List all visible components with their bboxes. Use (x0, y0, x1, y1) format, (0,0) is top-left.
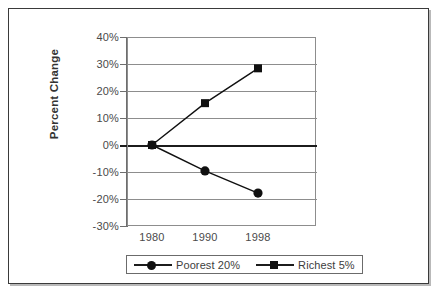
y-tick-20 (120, 91, 127, 92)
y-tick-40 (120, 37, 127, 38)
y-tick-neg30 (120, 226, 127, 227)
legend-label-poorest-20: Poorest 20% (176, 259, 240, 271)
y-tick-label-40: 40% (59, 32, 119, 43)
square-marker-icon (256, 259, 294, 271)
y-tick-10 (120, 118, 127, 119)
y-tick-neg20 (120, 199, 127, 200)
y-tick-label-0: 0% (59, 140, 119, 151)
y-tick-label-10: 10% (59, 113, 119, 124)
y-tick-label-neg30: -30% (59, 221, 119, 232)
legend-entry-richest-5[interactable]: Richest 5% (256, 259, 355, 271)
y-axis-tick-labels: 40% 30% 20% 10% 0% -10% -20% -30% (55, 0, 119, 293)
x-tick-label-1990: 1990 (192, 231, 217, 243)
x-tick-label-1998: 1998 (245, 231, 270, 243)
gridline-20 (128, 91, 317, 92)
chart-figure: Percent Change 40% 30% 20% 10% 0% -10% -… (0, 0, 438, 293)
y-tick-30 (120, 64, 127, 65)
legend-entry-poorest-20[interactable]: Poorest 20% (134, 259, 240, 271)
gridline-0 (128, 145, 317, 147)
gridline-neg20 (128, 199, 317, 200)
x-tick-label-1980: 1980 (139, 231, 164, 243)
y-tick-neg10 (120, 172, 127, 173)
y-tick-0 (120, 145, 127, 147)
y-tick-label-20: 20% (59, 86, 119, 97)
x-axis-tick-labels: 1980 1990 1998 (127, 231, 316, 247)
y-tick-label-neg10: -10% (59, 167, 119, 178)
gridline-10 (128, 118, 317, 119)
y-tick-label-30: 30% (59, 59, 119, 70)
circle-marker-icon (134, 259, 172, 271)
plot-area (127, 37, 316, 226)
gridline-30 (128, 64, 317, 65)
legend-label-richest-5: Richest 5% (298, 259, 355, 271)
gridline-neg10 (128, 172, 317, 173)
chart-legend: Poorest 20% Richest 5% (126, 255, 363, 274)
y-tick-label-neg20: -20% (59, 194, 119, 205)
